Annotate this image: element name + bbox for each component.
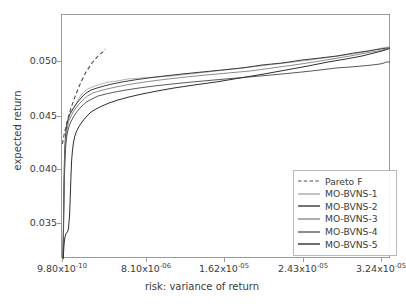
x-tick-label: 3.24x10-05 <box>356 263 406 274</box>
legend-line-swatch <box>298 176 320 186</box>
x-tick-label: 2.43x10-05 <box>278 263 328 274</box>
x-tick-mantissa: 1.62x10 <box>199 263 238 274</box>
legend-label: MO-BVNS-3 <box>325 214 378 223</box>
x-tick-mark <box>62 258 63 262</box>
legend-label: MO-BVNS-2 <box>325 202 378 211</box>
legend-item-1[interactable]: Pareto F <box>298 175 391 188</box>
x-tick-exponent: -05 <box>395 262 406 270</box>
legend-line-swatch <box>298 214 320 224</box>
legend[interactable]: Pareto FMO-BVNS-1MO-BVNS-2MO-BVNS-3MO-BV… <box>293 170 397 256</box>
legend-item-6[interactable]: MO-BVNS-5 <box>298 238 391 251</box>
legend-label: MO-BVNS-5 <box>325 240 378 249</box>
legend-item-3[interactable]: MO-BVNS-2 <box>298 200 391 213</box>
x-tick-mark <box>224 258 225 262</box>
x-tick-mantissa: 3.24x10 <box>356 263 395 274</box>
x-tick-exponent: -10 <box>76 262 87 270</box>
legend-label: MO-BVNS-4 <box>325 227 378 236</box>
x-tick-label: 1.62x10-05 <box>199 263 249 274</box>
legend-label: MO-BVNS-1 <box>325 189 378 198</box>
x-tick-mantissa: 8.10x10 <box>121 263 160 274</box>
legend-line-swatch <box>298 189 320 199</box>
x-tick-label: 9.80x10-10 <box>37 263 87 274</box>
x-tick-exponent: -05 <box>238 262 249 270</box>
x-tick-mantissa: 2.43x10 <box>278 263 317 274</box>
legend-label: Pareto F <box>325 177 362 186</box>
legend-item-5[interactable]: MO-BVNS-4 <box>298 225 391 238</box>
x-tick-mark <box>381 258 382 262</box>
x-tick-label: 8.10x10-06 <box>121 263 171 274</box>
x-tick-exponent: -05 <box>317 262 328 270</box>
legend-item-2[interactable]: MO-BVNS-1 <box>298 188 391 201</box>
x-tick-mark <box>303 258 304 262</box>
x-tick-mantissa: 9.80x10 <box>37 263 76 274</box>
legend-line-swatch <box>298 239 320 249</box>
x-tick-mark <box>146 258 147 262</box>
legend-line-swatch <box>298 227 320 237</box>
x-axis-label: risk: variance of return <box>0 281 404 292</box>
legend-item-4[interactable]: MO-BVNS-3 <box>298 213 391 226</box>
x-tick-exponent: -06 <box>160 262 171 270</box>
legend-line-swatch <box>298 201 320 211</box>
